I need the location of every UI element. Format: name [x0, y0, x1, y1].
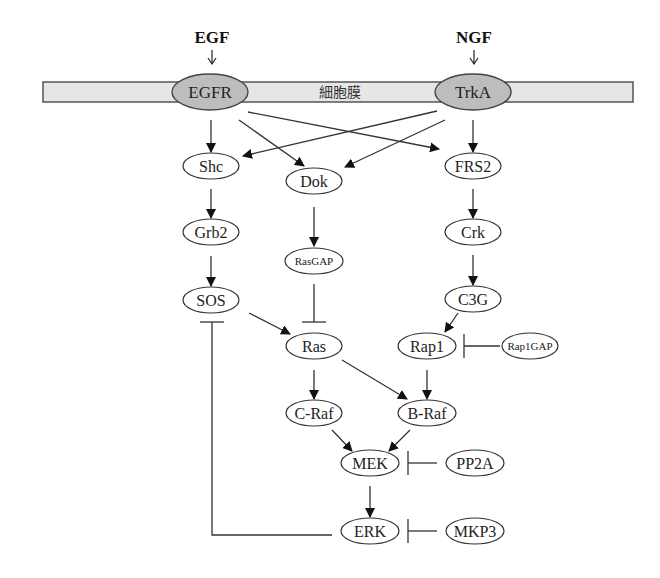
node-crk: Crk: [445, 219, 501, 245]
node-c-raf: C-Raf: [286, 400, 342, 426]
node-label: Shc: [199, 158, 223, 175]
edge-c3g-to-rap1-activate: [445, 313, 458, 332]
node-label: Rap1: [410, 338, 444, 356]
node-label: SOS: [196, 292, 225, 309]
node-label: PP2A: [456, 455, 494, 472]
membrane-label: 細胞膜: [319, 84, 361, 100]
node-grb2: Grb2: [183, 219, 239, 245]
node-label: MEK: [352, 455, 388, 472]
nodes-layer: EGFRTrkAShcDokFRS2Grb2RasGAPCrkSOSC3GRas…: [172, 74, 558, 544]
node-sos: SOS: [183, 287, 239, 313]
edge-trka-to-dok-activate: [345, 120, 445, 167]
edge-egfr-to-dok-activate: [239, 120, 304, 166]
node-label: TrkA: [455, 83, 492, 102]
node-erk: ERK: [341, 518, 399, 544]
node-label: Crk: [461, 224, 485, 241]
ligand-egf: EGF: [195, 28, 230, 64]
edge-c-raf-to-mek-activate: [332, 430, 352, 451]
node-trka: TrkA: [435, 74, 511, 110]
node-label: Rap1GAP: [507, 340, 552, 352]
node-label: C-Raf: [294, 405, 334, 422]
node-dok: Dok: [286, 168, 342, 194]
node-frs2: FRS2: [445, 153, 501, 179]
edge-ras-to-b-raf-activate: [342, 360, 407, 399]
node-label: EGFR: [188, 83, 232, 102]
node-label: B-Raf: [407, 405, 447, 422]
node-label: FRS2: [455, 158, 491, 175]
egf-ngf-signaling-diagram: 細胞膜 EGFRTrkAShcDokFRS2Grb2RasGAPCrkSOSC3…: [0, 0, 660, 578]
edge-rasgap-to-ras-inhibit: [302, 284, 326, 322]
node-label: RasGAP: [295, 255, 334, 267]
node-label: Grb2: [195, 224, 228, 241]
edge-mkp3-to-erk-inhibit: [408, 519, 437, 543]
ligand-ngf: NGF: [456, 28, 492, 64]
node-rap1gap: Rap1GAP: [502, 333, 558, 359]
edge-b-raf-to-mek-activate: [389, 430, 410, 451]
cell-membrane: 細胞膜: [43, 82, 633, 102]
edge-trka-to-shc-activate: [243, 111, 437, 156]
node-pp2a: PP2A: [446, 450, 504, 476]
edge-sos-to-ras-activate: [249, 313, 290, 334]
node-b-raf: B-Raf: [398, 400, 456, 426]
node-c3g: C3G: [445, 286, 501, 312]
node-shc: Shc: [183, 153, 239, 179]
node-label: MKP3: [454, 523, 497, 540]
node-label: C3G: [458, 291, 489, 308]
ligand-label: NGF: [456, 28, 492, 47]
node-rap1: Rap1: [398, 333, 456, 359]
node-label: ERK: [354, 523, 386, 540]
node-egfr: EGFR: [172, 74, 248, 110]
ligands-layer: EGFNGF: [195, 28, 492, 64]
node-mkp3: MKP3: [446, 518, 504, 544]
node-mek: MEK: [341, 450, 399, 476]
node-rasgap: RasGAP: [285, 248, 343, 274]
edge-pp2a-to-mek-inhibit: [408, 451, 437, 475]
edge-rap1gap-to-rap1-inhibit: [464, 334, 500, 358]
node-label: Ras: [302, 338, 326, 355]
node-ras: Ras: [286, 333, 342, 359]
node-label: Dok: [300, 173, 328, 190]
ligand-label: EGF: [195, 28, 230, 47]
